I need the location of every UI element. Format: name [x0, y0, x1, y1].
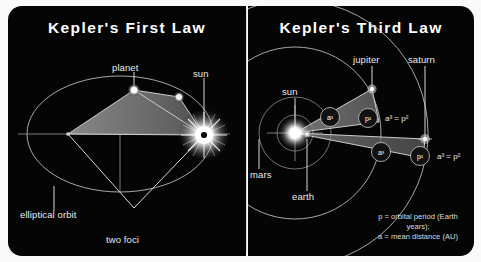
- equation-jupiter: a³ = p²: [385, 114, 409, 123]
- planet-dot-primary: [127, 83, 141, 97]
- label-sun-left: sun: [193, 68, 209, 79]
- label-mars: mars: [250, 169, 272, 180]
- badge-a-cubed-saturn-text: a³: [378, 149, 385, 156]
- diagram-root: Kepler's First Law: [0, 0, 481, 262]
- planet-dot-earth: [304, 131, 311, 138]
- badge-a-cubed-jupiter-text: a³: [327, 114, 334, 121]
- label-jupiter: jupiter: [353, 54, 380, 65]
- badge-a-cubed-saturn: a³: [372, 143, 391, 162]
- legend-line-1: p = orbital period (Earth: [366, 212, 470, 222]
- badge-p-squared-saturn: p²: [411, 147, 430, 166]
- legend-line-3: a = mean distance (AU): [366, 232, 470, 242]
- panel-divider: [246, 10, 247, 252]
- panel-keplers-first-law: Kepler's First Law: [8, 6, 246, 256]
- planet-dot-jupiter: [367, 84, 376, 93]
- badge-p-squared-jupiter: p²: [359, 109, 378, 128]
- badge-p-squared-jupiter-text: p²: [365, 115, 372, 123]
- empty-focus-dot: [66, 132, 70, 136]
- legend-block: p = orbital period (Earth years); a = me…: [366, 212, 470, 242]
- sun-star: [177, 108, 231, 162]
- legend-line-2: years);: [366, 222, 470, 232]
- badge-a-cubed-jupiter: a³: [321, 108, 340, 127]
- label-elliptical-orbit: elliptical orbit: [20, 209, 77, 220]
- label-sun-right: sun: [282, 86, 298, 97]
- label-earth: earth: [292, 191, 314, 202]
- label-saturn: saturn: [408, 54, 435, 65]
- label-two-foci: two foci: [106, 234, 139, 245]
- planet-dot-secondary: [173, 91, 185, 103]
- badge-p-squared-saturn-text: p²: [417, 153, 424, 161]
- panel-keplers-third-law: Kepler's Third Law: [248, 6, 474, 256]
- equation-saturn: a³ = p²: [437, 152, 461, 161]
- label-planet: planet: [112, 62, 138, 73]
